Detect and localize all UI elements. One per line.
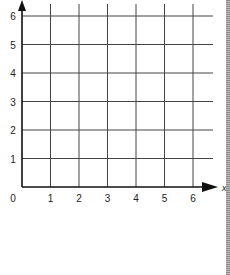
- x-tick-label: 2: [76, 193, 82, 204]
- origin-label: 0: [10, 193, 16, 204]
- x-tick-label: 1: [48, 193, 54, 204]
- x-tick-label: 5: [162, 193, 168, 204]
- y-tick-label: 5: [10, 40, 16, 51]
- x-tick-label: 6: [190, 193, 196, 204]
- y-axis-arrow-icon: [18, 0, 26, 11]
- y-tick-label: 6: [10, 11, 16, 22]
- y-tick-label: 4: [10, 68, 16, 79]
- coordinate-grid: 1234561234560x: [0, 0, 230, 275]
- page-edge-border: [226, 0, 230, 275]
- y-tick-label: 1: [10, 154, 16, 165]
- y-tick-label: 3: [10, 97, 16, 108]
- x-axis-arrow-icon: [202, 182, 218, 192]
- x-tick-label: 3: [105, 193, 111, 204]
- x-tick-label: 4: [133, 193, 139, 204]
- y-tick-label: 2: [10, 125, 16, 136]
